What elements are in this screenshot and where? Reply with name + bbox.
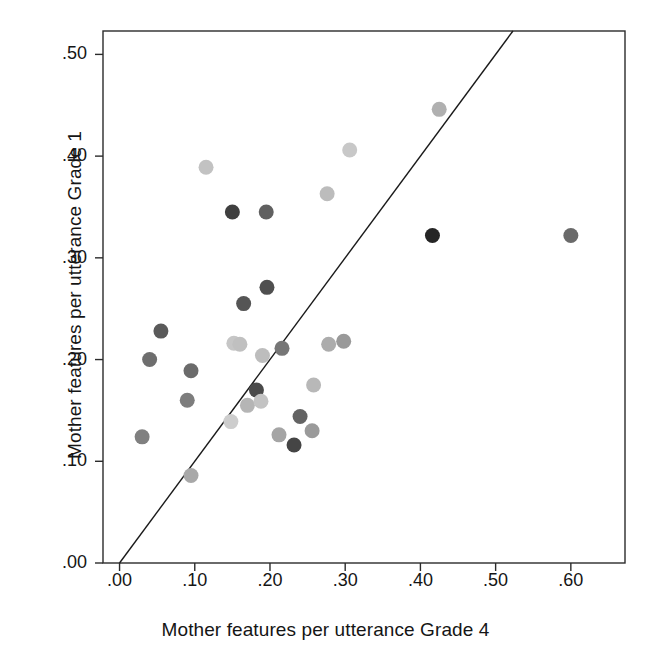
data-point [336, 334, 351, 349]
data-point [293, 409, 308, 424]
data-point [320, 186, 335, 201]
data-point [342, 143, 357, 158]
x-tick-label: .10 [168, 570, 222, 591]
data-point [255, 348, 270, 363]
data-point [236, 296, 251, 311]
x-tick-label: .30 [318, 570, 372, 591]
data-point [232, 337, 247, 352]
x-tick-label: .00 [93, 570, 147, 591]
data-point [184, 468, 199, 483]
data-point [199, 160, 214, 175]
plot-border [103, 31, 625, 563]
plot-canvas [0, 0, 651, 659]
y-axis-title-wrapper: Mother features per utterance Grade 1 [64, 0, 86, 621]
x-axis-title: Mother features per utterance Grade 4 [0, 619, 651, 641]
data-points-group [135, 102, 579, 483]
identity-reference-line [120, 31, 513, 563]
scatter-plot-figure: .00.10.20.30.40.50 .00.10.20.30.40.50.60… [0, 0, 651, 659]
data-point [240, 398, 255, 413]
data-point [305, 423, 320, 438]
plot-frame [103, 31, 625, 563]
axis-ticks [95, 54, 571, 571]
data-point [184, 363, 199, 378]
x-tick-label: .40 [393, 570, 447, 591]
data-point [563, 228, 578, 243]
data-point [253, 394, 268, 409]
identity-line [120, 31, 513, 563]
data-point [153, 324, 168, 339]
data-point [275, 341, 290, 356]
x-tick-label: .60 [544, 570, 598, 591]
data-point [142, 352, 157, 367]
data-point [223, 414, 238, 429]
data-point [135, 429, 150, 444]
data-point [432, 102, 447, 117]
data-point [259, 205, 274, 220]
x-tick-label: .20 [243, 570, 297, 591]
data-point [259, 280, 274, 295]
data-point [272, 427, 287, 442]
y-axis-title: Mother features per utterance Grade 1 [64, 131, 85, 459]
x-tick-label: .50 [469, 570, 523, 591]
data-point [321, 337, 336, 352]
data-point [225, 205, 240, 220]
data-point [287, 438, 302, 453]
data-point [180, 393, 195, 408]
data-point [306, 377, 321, 392]
data-point [425, 228, 440, 243]
